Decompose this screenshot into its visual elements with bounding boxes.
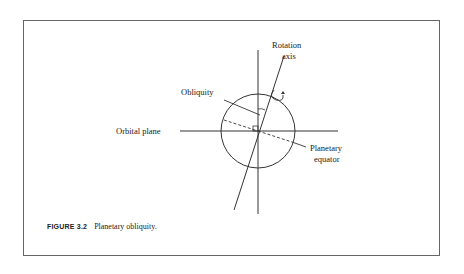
label-orbital-plane: Orbital plane: [116, 126, 161, 136]
label-rotation: Rotation: [272, 40, 301, 50]
right-angle-marker: [253, 126, 258, 131]
obliquity-diagram: [0, 0, 464, 274]
label-planetary: Planetary: [310, 143, 342, 153]
figure-number: FIGURE 3.2: [47, 223, 87, 230]
label-axis: axis: [282, 51, 296, 61]
label-equator: equator: [314, 154, 340, 164]
rotation-arrowhead-icon: [281, 91, 285, 94]
figure-caption: FIGURE 3.2Planetary obliquity.: [47, 222, 157, 231]
label-obliquity: Obliquity: [181, 87, 214, 97]
equator-leader-line: [292, 142, 306, 147]
figure-caption-text: Planetary obliquity.: [94, 222, 157, 231]
rotation-axis-line: [234, 56, 284, 210]
obliquity-arc: [258, 109, 265, 110]
equator-dashed-line-2: [258, 131, 292, 142]
